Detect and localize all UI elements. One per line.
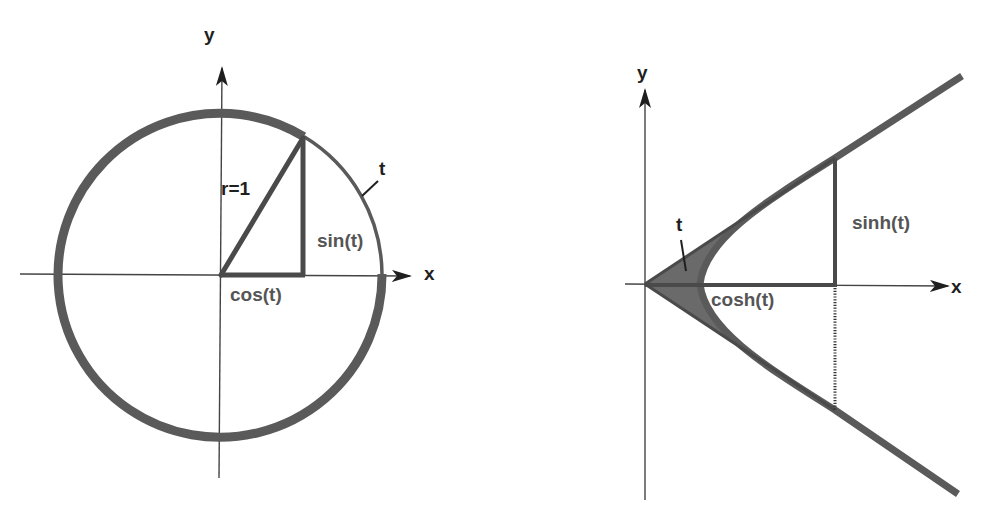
hyperbola-upper-branch xyxy=(700,76,962,284)
radius-line xyxy=(221,138,303,275)
sinh-label: sinh(t) xyxy=(852,212,910,234)
unit-hyperbola-panel xyxy=(625,76,962,500)
arc-t-pointer xyxy=(362,181,378,196)
figure: y x r=1 sin(t) cos(t) t y x sinh(t) cosh… xyxy=(0,0,991,524)
cosh-label: cosh(t) xyxy=(711,289,774,311)
x-axis-label-right: x xyxy=(951,276,962,298)
hyperbola-lower-branch xyxy=(700,284,958,494)
y-axis-label-right: y xyxy=(637,62,648,84)
area-label: t xyxy=(676,214,682,236)
arc-t xyxy=(304,137,382,274)
figure-caption-cutoff xyxy=(10,514,210,524)
arc-label: t xyxy=(379,158,385,180)
sine-label: sin(t) xyxy=(317,230,363,252)
unit-circle-panel xyxy=(20,68,410,478)
figure-svg xyxy=(0,0,991,524)
upper-ray xyxy=(645,158,835,284)
cosine-label: cos(t) xyxy=(230,284,282,306)
radius-label: r=1 xyxy=(221,178,250,200)
y-axis-label-left: y xyxy=(204,24,215,46)
x-axis-label-left: x xyxy=(424,263,435,285)
x-axis-left xyxy=(20,274,410,276)
